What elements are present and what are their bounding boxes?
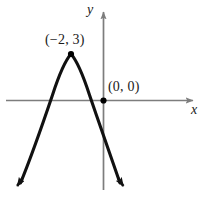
origin-point-label: (0, 0) xyxy=(108,80,140,94)
y-axis-label: y xyxy=(87,3,93,17)
x-axis-label: x xyxy=(191,103,197,117)
vertex-point xyxy=(68,51,74,57)
plot-canvas xyxy=(0,0,208,206)
parabola-figure: y x (−2, 3) (0, 0) xyxy=(0,0,208,206)
vertex-point-label: (−2, 3) xyxy=(45,33,85,47)
parabola-curve xyxy=(21,54,121,183)
origin-point xyxy=(100,97,106,103)
